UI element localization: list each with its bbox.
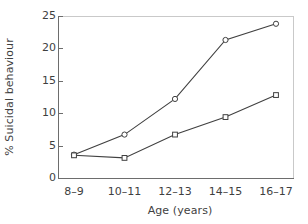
chart-series-layer <box>0 0 308 224</box>
data-point-circle <box>273 21 278 26</box>
data-point-square <box>122 156 127 161</box>
data-point-square <box>173 132 178 137</box>
x-axis-title: Age (years) <box>55 204 305 217</box>
series-line <box>74 95 276 158</box>
chart-figure: % Suicidal behaviour 0510152025 8–910–11… <box>0 0 308 224</box>
data-point-square <box>223 115 228 120</box>
data-point-circle <box>172 96 177 101</box>
data-point-square <box>72 153 77 158</box>
series-square <box>72 93 279 161</box>
data-point-circle <box>223 37 228 42</box>
data-point-square <box>274 93 279 98</box>
data-point-circle <box>122 132 127 137</box>
